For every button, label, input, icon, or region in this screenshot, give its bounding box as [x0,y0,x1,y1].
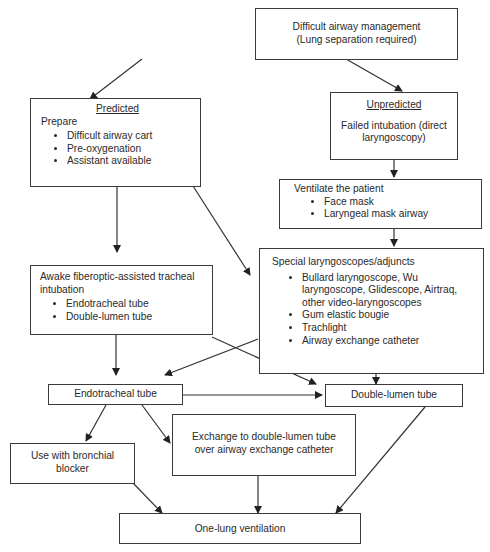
list-item: Face mask [324,196,475,209]
edge-blocker-olv [133,483,162,513]
list-item: Assistant available [67,155,194,168]
ventilate-heading: Ventilate the patient [294,183,475,196]
start-line2: (Lung separation required) [256,34,457,47]
list-item: Pre-oxygenation [67,143,194,156]
exchange-label: Exchange to double-lumen tube over airwa… [192,431,336,455]
special-heading: Special laryngoscopes/adjuncts [272,256,475,269]
olv-label: One-lung ventilation [195,523,286,534]
awake-list: Endotracheal tube Double-lumen tube [40,298,206,323]
list-item: Trachlight [302,322,475,335]
dlt-label: Double-lumen tube [351,389,437,400]
node-dlt: Double-lumen tube [325,384,463,407]
node-awake: Awake fiberoptic-assisted tracheal intub… [30,265,213,335]
unpredicted-text: Failed intubation (direct laryngoscopy) [341,120,447,145]
node-ventilate: Ventilate the patient Face mask Laryngea… [279,179,482,229]
node-exchange: Exchange to double-lumen tube over airwa… [172,414,356,476]
node-start: Difficult airway management (Lung separa… [255,8,458,60]
list-item: Laryngeal mask airway [324,208,475,221]
special-list: Bullard laryngoscope, Wu laryngoscope, G… [272,272,475,348]
edge-ett-blocker [86,405,106,441]
list-item: Difficult airway cart [67,130,194,143]
node-ett: Endotracheal tube [48,384,183,405]
node-unpredicted: Unpredicted Failed intubation (direct la… [330,92,458,160]
edge-ett-exchange [142,405,170,443]
list-item: Bullard laryngoscope, Wu laryngoscope, G… [302,272,475,310]
predicted-subheading: Prepare [41,116,194,129]
node-predicted: Predicted Prepare Difficult airway cart … [30,98,201,187]
start-line1: Difficult airway management [256,21,457,34]
ett-label: Endotracheal tube [74,388,157,399]
list-item: Gum elastic bougie [302,309,475,322]
node-blocker: Use with bronchial blocker [10,443,135,484]
edge-start-unpredicted [346,59,402,91]
edge-special-ett [165,339,258,375]
awake-heading: Awake fiberoptic-assisted tracheal intub… [40,271,206,296]
node-olv: One-lung ventilation [119,513,361,544]
list-item: Endotracheal tube [66,298,206,311]
ventilate-list: Face mask Laryngeal mask airway [294,196,475,221]
predicted-list: Difficult airway cart Pre-oxygenation As… [41,130,194,168]
node-special: Special laryngoscopes/adjuncts Bullard l… [259,248,484,374]
edge-start-predicted [90,59,142,99]
edge-predicted-special [193,186,250,275]
predicted-heading: Predicted [41,103,194,116]
list-item: Airway exchange catheter [302,335,475,348]
list-item: Double-lumen tube [66,311,206,324]
unpredicted-heading: Unpredicted [341,99,447,112]
blocker-label: Use with bronchial blocker [31,450,114,474]
